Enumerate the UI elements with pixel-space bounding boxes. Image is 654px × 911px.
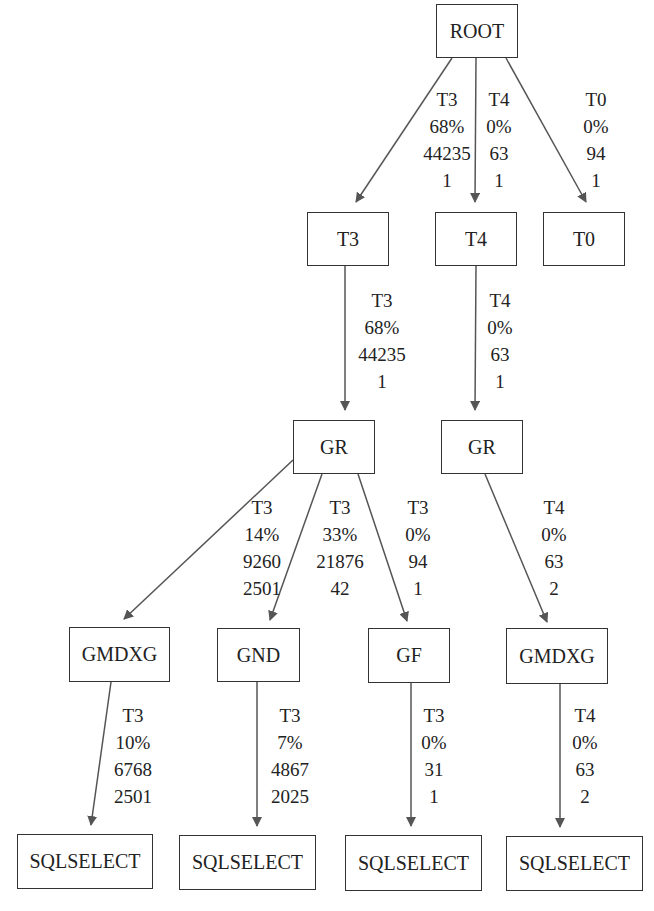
- edge-label-line: 1: [459, 167, 539, 194]
- edge-label-gr2-gmdxg2: T40%632: [514, 494, 594, 602]
- edge-label-line: T3: [378, 494, 458, 521]
- node-sql1: SQLSELECT: [17, 834, 153, 889]
- node-label: SQLSELECT: [192, 851, 303, 874]
- node-gf: GF: [368, 628, 450, 683]
- edge-label-line: 31: [394, 756, 474, 783]
- node-label: SQLSELECT: [358, 852, 469, 875]
- edge-label-line: T3: [342, 287, 422, 314]
- edge-label-line: T3: [93, 702, 173, 729]
- edge-label-line: 0%: [378, 521, 458, 548]
- edge-label-line: T3: [394, 702, 474, 729]
- node-label: GMDXG: [519, 645, 595, 668]
- edge-label-line: T3: [222, 494, 302, 521]
- edge-label-line: 94: [378, 548, 458, 575]
- edge-label-line: 1: [342, 368, 422, 395]
- edge-label-line: 44235: [342, 341, 422, 368]
- edge-label-line: 4867: [250, 756, 330, 783]
- edge-label-line: 10%: [93, 729, 173, 756]
- edge-label-t4-gr2: T40%631: [460, 287, 540, 395]
- edge-label-line: 0%: [460, 314, 540, 341]
- edge-label-line: 63: [514, 548, 594, 575]
- edge-label-gnd-sql2: T37%48672025: [250, 702, 330, 810]
- edge-label-line: 63: [460, 341, 540, 368]
- node-gmdxg2: GMDXG: [506, 628, 608, 684]
- node-label: GND: [237, 644, 280, 667]
- node-t4: T4: [435, 212, 517, 266]
- node-gr1: GR: [293, 420, 375, 474]
- edge-label-line: 33%: [300, 521, 380, 548]
- edge-label-line: 14%: [222, 521, 302, 548]
- edge-label-line: 63: [459, 140, 539, 167]
- node-sql2: SQLSELECT: [179, 835, 316, 890]
- edge-label-line: T4: [459, 86, 539, 113]
- node-gmdxg1: GMDXG: [69, 627, 170, 682]
- node-t0: T0: [543, 212, 625, 266]
- edge-label-line: 1: [460, 368, 540, 395]
- edge-label-line: 94: [556, 140, 636, 167]
- edge-label-line: 2: [545, 783, 625, 810]
- node-label: GMDXG: [82, 643, 158, 666]
- node-sql3: SQLSELECT: [345, 835, 482, 891]
- edge-label-line: 2025: [250, 783, 330, 810]
- edge-label-gr1-gmdxg1: T314%92602501: [222, 494, 302, 602]
- edge-label-line: 0%: [459, 113, 539, 140]
- node-label: T3: [337, 228, 359, 251]
- node-sql4: SQLSELECT: [506, 836, 643, 891]
- node-label: GR: [320, 436, 348, 459]
- edge-label-line: 0%: [545, 729, 625, 756]
- edge-label-line: 63: [545, 756, 625, 783]
- edge-label-root-t4: T40%631: [459, 86, 539, 194]
- edge-label-line: 1: [394, 783, 474, 810]
- edge-label-line: 0%: [556, 113, 636, 140]
- edge-label-gmdxg1-sql1: T310%67682501: [93, 702, 173, 810]
- edge-label-line: 6768: [93, 756, 173, 783]
- edge-label-line: T3: [250, 702, 330, 729]
- edge-label-line: 2: [514, 575, 594, 602]
- edge-label-root-t0: T00%941: [556, 86, 636, 194]
- edge-label-line: 9260: [222, 548, 302, 575]
- edge-label-line: T4: [460, 287, 540, 314]
- edge-label-gf-sql3: T30%311: [394, 702, 474, 810]
- edge-label-line: T3: [300, 494, 380, 521]
- node-label: T0: [573, 228, 595, 251]
- edge-label-line: 0%: [394, 729, 474, 756]
- edge-label-gr1-gf: T30%941: [378, 494, 458, 602]
- edge-label-t3-gr1: T368%442351: [342, 287, 422, 395]
- edge-label-line: 1: [556, 167, 636, 194]
- node-t3: T3: [307, 212, 389, 266]
- edge-label-line: 42: [300, 575, 380, 602]
- edge-label-line: 7%: [250, 729, 330, 756]
- node-label: GR: [468, 436, 496, 459]
- edge-label-line: 68%: [342, 314, 422, 341]
- edge-label-line: 1: [378, 575, 458, 602]
- node-label: ROOT: [450, 20, 504, 43]
- edge-label-line: 21876: [300, 548, 380, 575]
- edge-label-line: T4: [514, 494, 594, 521]
- node-gr2: GR: [441, 420, 523, 474]
- edge-label-gr1-gnd: T333%2187642: [300, 494, 380, 602]
- node-label: T4: [465, 228, 487, 251]
- edge-label-line: 2501: [222, 575, 302, 602]
- node-gnd: GND: [217, 628, 300, 682]
- edge-label-line: 2501: [93, 783, 173, 810]
- node-label: SQLSELECT: [519, 852, 630, 875]
- node-root: ROOT: [436, 4, 518, 58]
- edge-label-line: T0: [556, 86, 636, 113]
- edge-label-gmdxg2-sql4: T40%632: [545, 702, 625, 810]
- edge-label-line: 0%: [514, 521, 594, 548]
- node-label: SQLSELECT: [29, 850, 140, 873]
- edge-label-line: T4: [545, 702, 625, 729]
- node-label: GF: [396, 644, 422, 667]
